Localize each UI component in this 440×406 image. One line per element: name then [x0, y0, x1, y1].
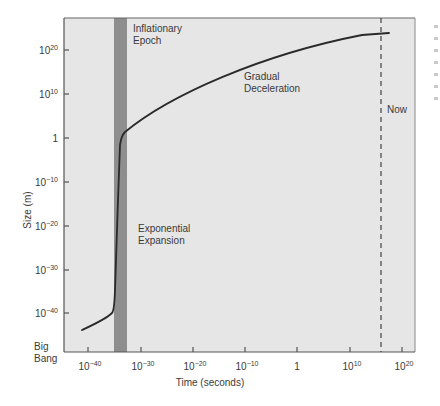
y-tick-label: 10−10: [35, 176, 58, 188]
y-tick-label: 10−20: [35, 220, 58, 232]
y-axis-title: Size (m): [22, 191, 33, 228]
y-tick-label: 10−40: [35, 307, 58, 319]
now-label: Now: [387, 104, 408, 115]
cropped-text-fragment: [434, 73, 438, 76]
x-tick-label: 10−30: [132, 360, 155, 372]
y-tick-labels: 1020 1010 1 10−10 10−20 10−30 10−40: [35, 44, 58, 319]
y-tick-label: 10−30: [35, 264, 58, 276]
cropped-text-fragment: [434, 85, 438, 88]
x-tick-label: 1: [294, 361, 300, 372]
exponential-expansion-label-line2: Expansion: [138, 235, 185, 246]
x-tick-label: 10−10: [236, 360, 259, 372]
x-tick-label: 10−20: [184, 360, 207, 372]
inflationary-epoch-label-line1: Inflationary: [133, 23, 182, 34]
exponential-expansion-label-line1: Exponential: [138, 223, 190, 234]
big-bang-label-line1: Big: [34, 341, 48, 352]
y-tick-label: 1010: [39, 88, 58, 100]
chart: 1020 1010 1 10−10 10−20 10−30 10−40 Big …: [0, 0, 440, 406]
y-tick-label: 1020: [39, 44, 58, 56]
x-tick-label: 1010: [343, 360, 362, 372]
cropped-text-fragment: [434, 37, 438, 40]
cropped-text-fragment: [434, 97, 438, 100]
x-tick-labels: 10−40 10−30 10−20 10−10 1 1010 1020: [79, 360, 414, 372]
x-tick-label: 1020: [395, 360, 414, 372]
x-axis-title: Time (seconds): [176, 377, 245, 388]
gradual-deceleration-label-line1: Gradual: [244, 71, 280, 82]
gradual-deceleration-label-line2: Deceleration: [244, 83, 300, 94]
y-tick-label: 1: [52, 133, 58, 144]
cropped-text-fragment: [434, 25, 438, 28]
cropped-text-fragment: [434, 61, 438, 64]
inflationary-epoch-label-line2: Epoch: [133, 35, 161, 46]
cropped-text-fragment: [434, 49, 438, 52]
x-tick-label: 10−40: [79, 360, 102, 372]
inflationary-epoch-band: [114, 18, 127, 352]
big-bang-label-line2: Bang: [34, 353, 57, 364]
